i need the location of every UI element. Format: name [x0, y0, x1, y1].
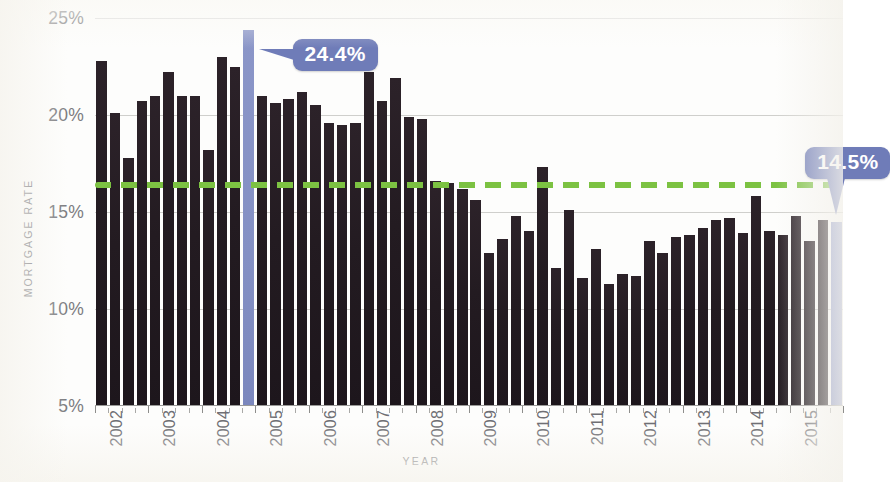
- bar: [711, 220, 721, 406]
- bar: [230, 67, 240, 407]
- x-axis-year-label: 2013: [696, 410, 714, 446]
- x-axis-year-label: 2008: [429, 410, 447, 446]
- bar: [324, 123, 334, 406]
- bar: [377, 101, 387, 406]
- bar: [537, 167, 547, 406]
- bar: [497, 239, 507, 406]
- x-axis-year-label: 2009: [482, 410, 500, 446]
- x-axis-year-label: 2006: [322, 410, 340, 446]
- bar: [137, 101, 147, 406]
- x-axis-year-label: 2007: [375, 410, 393, 446]
- bar: [484, 253, 494, 406]
- y-axis-tick-label: 15%: [48, 202, 84, 223]
- bar: [751, 196, 761, 406]
- callout-peak: 24.4%: [293, 39, 378, 71]
- bar: [470, 200, 480, 406]
- callout-tail-icon: [827, 178, 845, 215]
- bar: [123, 158, 133, 406]
- bar: [190, 96, 200, 406]
- y-axis-title: MORTGAGE RATE: [22, 148, 34, 328]
- bar: [791, 216, 801, 406]
- bar: [577, 278, 587, 406]
- callout-latest: 14.5%: [805, 147, 890, 179]
- bar: [551, 268, 561, 406]
- bar: [524, 231, 534, 406]
- bar: [631, 276, 641, 406]
- bar: [764, 231, 774, 406]
- x-axis-year-label: 2011: [589, 410, 607, 445]
- bar: [591, 249, 601, 406]
- bar: [337, 125, 347, 406]
- bar: [511, 216, 521, 406]
- bar: [617, 274, 627, 406]
- x-axis-year-label: 2004: [215, 410, 233, 446]
- y-axis-tick-label: 10%: [48, 299, 84, 320]
- bar: [364, 72, 374, 406]
- bar: [831, 222, 841, 406]
- bar: [257, 96, 267, 406]
- callout-tail-icon: [259, 49, 294, 60]
- bar: [217, 57, 227, 406]
- bar: [671, 237, 681, 406]
- x-axis-year-label: 2015: [803, 410, 821, 446]
- bar: [270, 103, 280, 406]
- x-axis-title: YEAR: [0, 455, 843, 467]
- bar: [243, 30, 253, 406]
- bar: [430, 181, 440, 406]
- y-axis-tick-label: 20%: [48, 105, 84, 126]
- bar: [110, 113, 120, 406]
- bar: [283, 99, 293, 406]
- bar: [818, 220, 828, 406]
- bar: [417, 119, 427, 406]
- bar: [163, 72, 173, 406]
- bar: [457, 189, 467, 406]
- bar: [804, 241, 814, 406]
- x-axis-year-label: 2003: [161, 410, 179, 446]
- callout-latest-label: 14.5%: [817, 150, 878, 173]
- x-axis-tick: [843, 406, 844, 413]
- bar: [390, 78, 400, 406]
- bar: [778, 235, 788, 406]
- bar-series: [95, 18, 843, 406]
- bar: [203, 150, 213, 406]
- bar: [604, 284, 614, 406]
- average-line: [95, 182, 843, 188]
- plot-area: [95, 18, 843, 406]
- bar: [657, 253, 667, 406]
- x-axis-labels: 2002200320042005200620072008200920102011…: [95, 410, 843, 458]
- y-axis: 25%20%15%10%5%: [0, 0, 84, 482]
- x-axis-year-label: 2010: [535, 410, 553, 446]
- bar: [738, 233, 748, 406]
- bar: [444, 183, 454, 406]
- y-axis-tick-label: 25%: [48, 8, 84, 29]
- callout-peak-label: 24.4%: [305, 42, 366, 65]
- x-axis-year-label: 2002: [108, 410, 126, 446]
- bar: [684, 235, 694, 406]
- bar: [177, 96, 187, 406]
- bar: [350, 123, 360, 406]
- bar: [150, 96, 160, 406]
- bar: [297, 92, 307, 406]
- y-axis-tick-label: 5%: [58, 396, 84, 417]
- bar: [724, 218, 734, 406]
- bar: [698, 228, 708, 406]
- x-axis-year-label: 2014: [749, 410, 767, 446]
- x-axis-year-label: 2012: [642, 410, 660, 446]
- bar: [96, 61, 106, 406]
- bar: [310, 105, 320, 406]
- bar: [404, 117, 414, 406]
- bar: [564, 210, 574, 406]
- bar: [644, 241, 654, 406]
- x-axis-year-label: 2005: [268, 410, 286, 446]
